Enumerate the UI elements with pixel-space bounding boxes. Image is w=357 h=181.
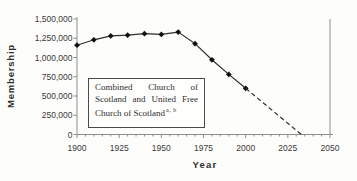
data-point-marker	[74, 42, 80, 48]
y-tick-label: 250,000	[42, 110, 73, 120]
annotation-box: Combined Church of Scotland and United F…	[88, 78, 205, 128]
data-point-marker	[142, 31, 148, 37]
y-tick-label: 1,250,000	[35, 33, 73, 43]
annotation-line-3: Church of Scotlanda, b	[95, 105, 198, 120]
annotation-line-3-text: Church of Scotland	[95, 108, 165, 118]
annotation-line-1: Combined Church of	[95, 82, 198, 94]
data-point-marker	[91, 37, 97, 43]
x-tick-label: 1950	[152, 143, 171, 153]
x-axis-title: Year	[193, 159, 218, 170]
x-tick-label: 2025	[278, 143, 297, 153]
y-tick-label: 1,000,000	[35, 53, 73, 63]
x-tick-label: 1925	[110, 143, 129, 153]
y-tick-label: 500,000	[42, 91, 73, 101]
membership-chart-figure: Membership Year 190019251950197520002025…	[0, 0, 357, 181]
projection-line	[246, 88, 302, 134]
y-tick-label: 750,000	[42, 72, 73, 82]
data-point-marker	[108, 33, 114, 39]
y-tick-label: 1,500,000	[35, 14, 73, 24]
data-point-marker	[125, 32, 131, 38]
x-tick-label: 1900	[68, 143, 87, 153]
x-tick-label: 2000	[236, 143, 255, 153]
y-tick-label: 0	[68, 130, 73, 140]
data-point-marker	[158, 32, 164, 38]
x-tick-label: 2050	[321, 143, 340, 153]
annotation-line-2: Scotland and United Free	[95, 94, 198, 106]
footnote-marker: a, b	[166, 107, 177, 113]
y-axis-title: Membership	[5, 44, 16, 108]
x-tick-label: 1975	[194, 143, 213, 153]
